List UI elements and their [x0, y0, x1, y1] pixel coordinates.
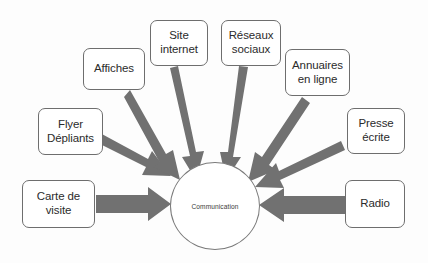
node-label: Flyer Dépliants	[44, 118, 97, 145]
node-presse-ecrite[interactable]: Presse écrite	[347, 108, 405, 154]
node-radio[interactable]: Radio	[345, 180, 405, 228]
node-site-internet[interactable]: Site internet	[150, 20, 208, 66]
node-label: Presse écrite	[355, 117, 396, 144]
node-carte-de-visite[interactable]: Carte de visite	[22, 180, 95, 228]
node-label: Radio	[357, 197, 393, 211]
node-annuaires-en-ligne[interactable]: Annuaires en ligne	[285, 49, 350, 96]
node-label: Site internet	[157, 29, 201, 56]
node-flyer-depliants[interactable]: Flyer Dépliants	[38, 108, 103, 155]
node-affiches[interactable]: Affiches	[83, 48, 145, 90]
node-label: Carte de visite	[34, 190, 83, 217]
center-node-communication[interactable]: Communication	[170, 162, 260, 250]
arrow-radio	[259, 188, 345, 222]
center-node-label: Communication	[191, 203, 238, 210]
node-reseaux-sociaux[interactable]: Réseaux sociaux	[221, 20, 281, 66]
node-label: Réseaux sociaux	[226, 29, 277, 56]
node-label: Annuaires en ligne	[289, 59, 346, 86]
node-label: Affiches	[91, 62, 137, 76]
arrow-carte-de-visite	[96, 187, 171, 221]
diagram-canvas: Carte de visite Flyer Dépliants Affiches…	[0, 0, 428, 263]
